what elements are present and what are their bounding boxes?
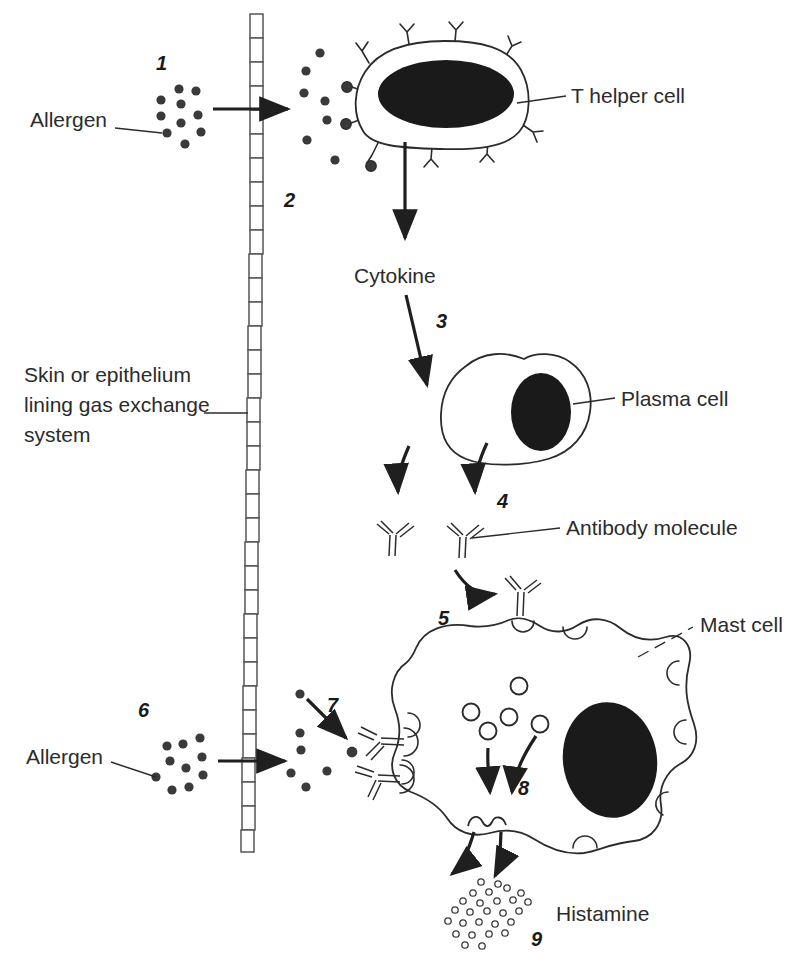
allergen-cluster-inside-bottom bbox=[286, 689, 331, 791]
barrier-label-line-2: lining gas exchange bbox=[24, 393, 210, 416]
epithelium-barrier bbox=[241, 14, 263, 852]
allergen-bound-mast bbox=[347, 747, 358, 758]
allergen-label-top-group: Allergen bbox=[30, 108, 162, 133]
allergen-label-bottom-group: Allergen bbox=[26, 745, 156, 777]
antibody-molecule-2 bbox=[447, 523, 484, 558]
histamine-cluster bbox=[445, 879, 531, 949]
t-helper-nucleus bbox=[378, 60, 514, 128]
vesicle-5 bbox=[532, 716, 549, 733]
antibody-molecule-label: Antibody molecule bbox=[566, 516, 738, 539]
t-helper-cell bbox=[341, 22, 543, 171]
step-number-9: 9 bbox=[531, 928, 543, 950]
step-number-3: 3 bbox=[436, 310, 447, 332]
step-number-2: 2 bbox=[283, 189, 295, 211]
allergen-label-top: Allergen bbox=[30, 108, 107, 131]
mast-cell-label: Mast cell bbox=[700, 613, 783, 636]
mast-cell bbox=[392, 618, 696, 853]
step-number-8: 8 bbox=[518, 777, 530, 799]
antibody-bound-top bbox=[505, 576, 541, 616]
allergen-label-bottom: Allergen bbox=[26, 745, 103, 768]
barrier-label-line-1: Skin or epithelium bbox=[24, 363, 191, 386]
vesicle-1 bbox=[511, 678, 528, 695]
barrier-label-line-3: system bbox=[24, 423, 91, 446]
barrier-label-group: Skin or epithelium lining gas exchange s… bbox=[24, 363, 248, 446]
arrow-histamine-left bbox=[452, 832, 474, 874]
antibody-molecule-1 bbox=[377, 521, 414, 556]
vesicle-3 bbox=[501, 709, 518, 726]
vesicle-4 bbox=[480, 723, 497, 740]
allergy-diagram: Allergen 1 2 bbox=[0, 0, 797, 967]
plasma-cell-nucleus bbox=[511, 373, 571, 451]
plasma-cell-label-group: Plasma cell bbox=[573, 387, 728, 410]
t-helper-label-group: T helper cell bbox=[517, 84, 685, 107]
step-number-7: 7 bbox=[327, 694, 339, 716]
antibody-label-group: Antibody molecule bbox=[472, 516, 738, 539]
t-helper-cell-label: T helper cell bbox=[571, 84, 685, 107]
arrow-antibody-to-mast bbox=[455, 570, 495, 594]
allergen-cluster-outside-top bbox=[156, 84, 205, 148]
arrow-cytokine-to-plasma bbox=[406, 295, 427, 385]
cytokine-label: Cytokine bbox=[354, 264, 436, 287]
step-number-6: 6 bbox=[138, 699, 150, 721]
step-number-4: 4 bbox=[496, 490, 508, 512]
allergen-cluster-outside-bottom bbox=[151, 733, 207, 794]
plasma-cell bbox=[441, 354, 591, 465]
allergen-cluster-inside-top bbox=[299, 48, 339, 164]
arrow-antibody-secretion-left bbox=[398, 446, 409, 492]
histamine-label: Histamine bbox=[556, 902, 649, 925]
arrow-histamine-right bbox=[495, 832, 501, 876]
plasma-cell-label: Plasma cell bbox=[621, 387, 728, 410]
step-number-1: 1 bbox=[156, 52, 167, 74]
vesicle-2 bbox=[463, 704, 480, 721]
